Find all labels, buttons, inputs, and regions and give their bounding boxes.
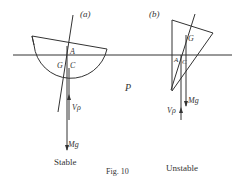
force-mg-a: Mg xyxy=(68,140,79,149)
axis-b xyxy=(171,14,195,90)
arrow-vp-b xyxy=(179,107,183,113)
point-g-b: G xyxy=(188,34,194,43)
point-a-b: A xyxy=(174,56,178,64)
force-vp-a: Vρ xyxy=(72,103,81,112)
force-vp-b: Vρ xyxy=(167,106,176,115)
panel-a-tag: (a) xyxy=(80,9,91,19)
panel-b-title: Unstable xyxy=(166,163,198,173)
plane-label: P xyxy=(125,82,131,93)
point-c-a: C xyxy=(70,61,75,70)
figure-caption: Fig. 10 xyxy=(106,167,129,176)
point-a-a: A xyxy=(70,47,75,56)
panel-b-tag: (b) xyxy=(149,9,160,19)
point-g-a: G xyxy=(57,61,63,70)
panel-a-title: Stable xyxy=(54,157,77,167)
diagram-canvas xyxy=(0,0,237,183)
force-mg-b: Mg xyxy=(188,96,199,105)
point-c-b: C xyxy=(182,58,187,66)
arrow-vp-a xyxy=(67,94,71,100)
